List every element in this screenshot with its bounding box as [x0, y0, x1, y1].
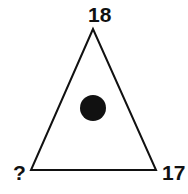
- bottom-left-vertex-label: ?: [13, 162, 26, 183]
- triangle-puzzle: 18 ? 17: [0, 0, 188, 194]
- bottom-right-vertex-label: 17: [162, 162, 185, 183]
- triangle-figure: [0, 0, 188, 194]
- top-vertex-label: 18: [88, 4, 111, 25]
- center-dot: [80, 95, 106, 121]
